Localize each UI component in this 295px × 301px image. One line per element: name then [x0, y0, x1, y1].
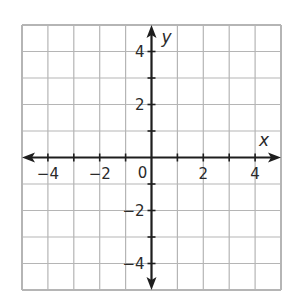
x-tick-label: 2 — [199, 165, 209, 183]
x-tick-label: −2 — [89, 165, 111, 183]
y-axis-title: y — [160, 27, 172, 47]
x-tick-label: −4 — [37, 165, 59, 183]
y-tick-label: −2 — [122, 202, 144, 220]
y-tick-label: 4 — [135, 43, 145, 61]
tick-labels: −4−224−4−2240xy — [37, 27, 270, 273]
y-tick-label: −4 — [122, 255, 144, 273]
origin-label: 0 — [138, 164, 148, 182]
coordinate-grid: −4−224−4−2240xy — [0, 0, 295, 301]
x-tick-label: 4 — [250, 165, 260, 183]
y-tick-label: 2 — [135, 96, 145, 114]
x-axis-title: x — [258, 130, 270, 150]
axes — [22, 25, 281, 290]
